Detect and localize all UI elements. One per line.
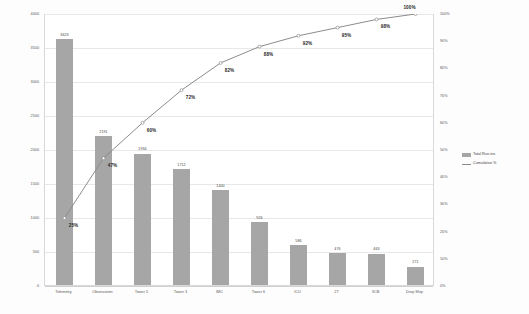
- bar-value-label: 1400: [216, 185, 224, 189]
- bar-value-label: 2191: [99, 131, 107, 135]
- y-axis-right-tick: 30%: [440, 202, 448, 206]
- y-axis-left-tick: 1500: [31, 182, 39, 186]
- x-axis-category-label: Observation: [92, 290, 112, 294]
- y-axis-right-tick: 10%: [440, 257, 448, 261]
- y-axis-left-tick: 3000: [31, 80, 39, 84]
- y-axis-right-tick: 40%: [440, 175, 448, 179]
- bar-column[interactable]: 1712: [173, 13, 191, 285]
- y-axis-right-tick: 100%: [440, 12, 450, 16]
- gridline: [45, 286, 433, 287]
- x-axis-category-label: Tower 5: [135, 290, 148, 294]
- bar-column[interactable]: 2191: [95, 13, 113, 285]
- y-axis-left-tick: 1000: [31, 216, 39, 220]
- y-axis-left-tick: 3500: [31, 46, 39, 50]
- y-axis-right-tick: 0%: [440, 284, 446, 288]
- bar-column[interactable]: 476: [329, 13, 347, 285]
- bar-rect[interactable]: [173, 169, 191, 285]
- bar-value-label: 463: [373, 248, 379, 252]
- bar-column[interactable]: 926: [251, 13, 269, 285]
- x-axis-category-label: Tower 6: [252, 290, 265, 294]
- bar-rect[interactable]: [329, 253, 347, 285]
- y-axis-right-tick: 80%: [440, 66, 448, 70]
- y-axis-left-tick: 4000: [31, 12, 39, 16]
- y-axis-right-tick: 70%: [440, 94, 448, 98]
- bar-value-label: 1934: [138, 148, 146, 152]
- plot-area: 36232191193417121400926586476463271 25%4…: [44, 14, 434, 286]
- bar-rect[interactable]: [212, 190, 230, 285]
- y-axis-left-tick: 2000: [31, 148, 39, 152]
- y-axis-left-tick: 0: [37, 284, 39, 288]
- y-axis-left-tick: 2500: [31, 114, 39, 118]
- legend-item-line: Cumulative %: [462, 161, 528, 167]
- bar-rect[interactable]: [368, 254, 386, 285]
- bar-column[interactable]: 1934: [134, 13, 152, 285]
- y-axis-right-tick: 60%: [440, 121, 448, 125]
- bar-column[interactable]: 271: [407, 13, 425, 285]
- x-axis-category-label: Drop Ship: [406, 290, 423, 294]
- legend-label-line: Cumulative %: [473, 162, 496, 166]
- bar-value-label: 476: [334, 248, 340, 252]
- bar-value-label: 926: [256, 217, 262, 221]
- y-axis-right-tick: 20%: [440, 230, 448, 234]
- legend-label-bars: Total Run-ins: [473, 153, 495, 157]
- bar-rect[interactable]: [95, 136, 113, 285]
- legend-line-swatch-icon: [462, 164, 471, 165]
- bar-rect[interactable]: [56, 39, 74, 285]
- bar-column[interactable]: 1400: [212, 13, 230, 285]
- bar-rect[interactable]: [251, 222, 269, 285]
- bar-value-label: 1712: [177, 164, 185, 168]
- legend-bar-swatch-icon: [462, 153, 471, 157]
- y-axis-left-tick: 500: [33, 250, 39, 254]
- legend-item-bars: Total Run-ins: [462, 152, 528, 158]
- x-axis-category-label: 3CB: [372, 290, 379, 294]
- pareto-chart: 05001000150020002500300035004000 3623219…: [0, 0, 529, 314]
- x-axis-category-label: IMC: [216, 290, 223, 294]
- bar-value-label: 3623: [60, 34, 68, 38]
- x-axis-category-label: 2T: [334, 290, 338, 294]
- bar-column[interactable]: 3623: [56, 13, 74, 285]
- x-axis: TelemetryObservationTower 5Tower 3IMCTow…: [44, 288, 434, 306]
- bar-rect[interactable]: [134, 154, 152, 286]
- cumulative-percent-label: 100%: [403, 5, 415, 10]
- y-axis-left: 05001000150020002500300035004000: [0, 14, 42, 286]
- x-axis-category-label: ICU: [294, 290, 301, 294]
- bar-column[interactable]: 586: [290, 13, 308, 285]
- y-axis-right-tick: 50%: [440, 148, 448, 152]
- bar-value-label: 586: [295, 240, 301, 244]
- bar-column[interactable]: 463: [368, 13, 386, 285]
- bar-rect[interactable]: [290, 245, 308, 285]
- y-axis-right-tick: 90%: [440, 39, 448, 43]
- bars-layer: 36232191193417121400926586476463271: [45, 14, 433, 285]
- bar-rect[interactable]: [407, 267, 425, 285]
- x-axis-category-label: Tower 3: [174, 290, 187, 294]
- y-axis-right: 0%10%20%30%40%50%60%70%80%90%100%: [438, 14, 468, 286]
- bar-value-label: 271: [412, 261, 418, 265]
- x-axis-category-label: Telemetry: [55, 290, 71, 294]
- chart-legend: Total Run-ins Cumulative %: [462, 152, 528, 170]
